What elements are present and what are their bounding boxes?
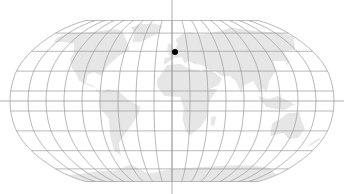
landmass-australia [270, 112, 305, 139]
world-map[interactable] [0, 0, 344, 194]
landmass-south-america [99, 89, 140, 156]
landmass-madagascar [211, 116, 217, 126]
map-canvas[interactable] [0, 0, 344, 194]
landmass-north-america [53, 29, 129, 93]
location-marker[interactable] [172, 49, 178, 55]
landmass-indonesia [257, 96, 297, 110]
landmass-uk [167, 43, 173, 52]
landmass-new-zealand [306, 138, 321, 147]
markers-layer [172, 49, 178, 55]
